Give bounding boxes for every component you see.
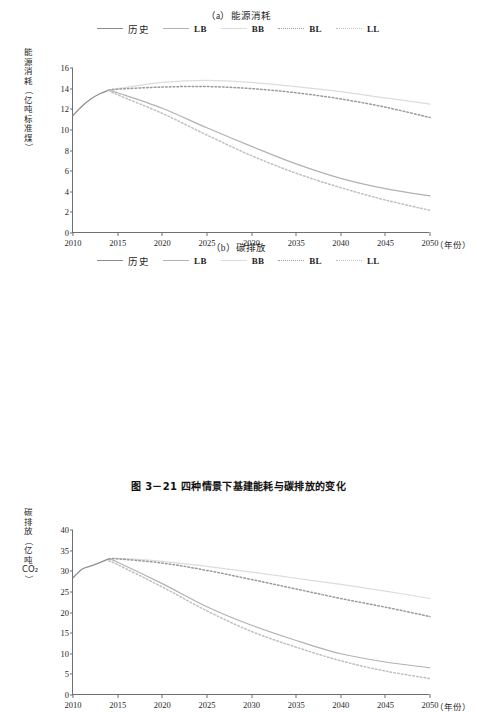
legend-label: LB [194, 256, 207, 266]
series-line-lb [109, 559, 430, 668]
legend-label: LL [367, 256, 380, 266]
series-line-bb [109, 558, 430, 598]
legend-label: BL [309, 24, 322, 34]
panel-a-title: （a）能源消耗 [0, 8, 477, 22]
legend-label: LB [194, 24, 207, 34]
y-axis-label-energy: 能源消耗（亿吨标准煤） [22, 48, 34, 153]
legend-item-历史: 历史 [97, 254, 149, 268]
series-line-bl [109, 559, 430, 617]
legend-energy: 历史LBBBBLLL [0, 22, 477, 36]
legend-label: LL [367, 24, 380, 34]
legend-label: 历史 [128, 22, 149, 36]
legend-item-bb: BB [221, 256, 265, 266]
y-axis-label-char: ） [23, 142, 33, 154]
legend-label: BL [309, 256, 322, 266]
chart-panel-carbon: （b）碳排放 历史LBBBBLLL 碳排放（亿吨CO₂） （年份） 051015… [0, 240, 477, 472]
legend-label: BB [252, 24, 265, 34]
legend-item-lb: LB [163, 256, 207, 266]
x-axis-unit-carbon: （年份） [435, 694, 471, 712]
series-line-ll [109, 90, 430, 210]
legend-item-ll: LL [336, 24, 380, 34]
figure-caption: 图 3－21 四种情景下基建能耗与碳排放的变化 [0, 478, 477, 493]
y-axis-label-carbon: 碳排放（亿吨CO₂） [22, 508, 34, 584]
legend-item-bl: BL [278, 24, 322, 34]
legend-item-lb: LB [163, 24, 207, 34]
series-layer [73, 68, 430, 233]
series-line-bl [109, 86, 430, 117]
series-line-历史 [73, 559, 109, 578]
legend-item-历史: 历史 [97, 22, 149, 36]
y-axis-label-char: （ [23, 85, 33, 97]
y-axis-label-char: （ [23, 535, 33, 547]
legend-item-bl: BL [278, 256, 322, 266]
panel-b-title: （b）碳排放 [0, 240, 477, 254]
series-line-bb [109, 80, 430, 104]
legend-label: 历史 [128, 254, 149, 268]
legend-label: BB [252, 256, 265, 266]
legend-item-ll: LL [336, 256, 380, 266]
series-layer [73, 530, 430, 695]
plot-area-carbon: （年份） 05101520253035402010201520202025203… [72, 530, 429, 695]
series-line-历史 [73, 90, 109, 115]
legend-item-bb: BB [221, 24, 265, 34]
legend-carbon: 历史LBBBBLLL [0, 254, 477, 268]
plot-area-energy: （年份） 02468101214162010201520202025203020… [72, 68, 429, 233]
y-axis-label-char: ） [23, 573, 33, 585]
chart-panel-energy: （a）能源消耗 历史LBBBBLLL 能源消耗（亿吨标准煤） （年份） 0246… [0, 8, 477, 240]
